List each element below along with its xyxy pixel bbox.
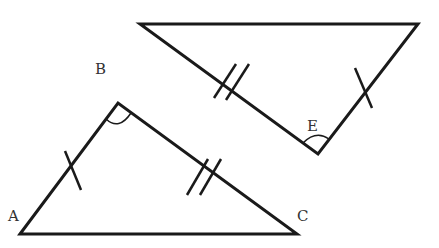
angle-arc-e [303,135,329,143]
vertex-label-a: A [8,209,19,224]
triangle-upper-outline [140,24,418,154]
triangle-abc [20,103,297,234]
double-tick-mark-bc [187,159,221,195]
triangle-upper [140,24,418,154]
vertex-label-b: B [95,62,106,77]
triangle-abc-outline [20,103,297,234]
congruent-triangles-diagram [0,0,439,248]
vertex-label-e: E [307,119,318,134]
vertex-label-c: C [297,209,308,224]
